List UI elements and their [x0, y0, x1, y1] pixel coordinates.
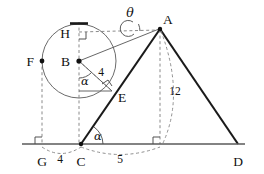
helper-lines	[79, 29, 159, 91]
label-point-F: F	[26, 54, 34, 69]
label-point-H: H	[60, 26, 70, 41]
label-base-4: 4	[57, 153, 63, 165]
dot-F	[40, 59, 45, 64]
label-point-A: A	[163, 12, 173, 27]
label-point-C: C	[76, 154, 85, 169]
label-angle-theta: θ	[126, 5, 134, 20]
triangle-side-C-to-A	[81, 29, 160, 144]
horizontal-dashed-H-to-A	[79, 30, 159, 32]
label-point-E: E	[118, 90, 126, 105]
label-altitude-12: 12	[169, 85, 181, 97]
geometry-figure: A B C D E F G H 4 12 4 5 θ α α	[0, 0, 264, 174]
label-angle-alpha-C: α	[94, 129, 102, 143]
label-point-G: G	[37, 154, 47, 169]
angle-arc-theta-loop	[120, 20, 134, 36]
label-point-B: B	[61, 54, 70, 69]
right-angle-mark-G	[35, 137, 42, 144]
geometry-diagram-root: A B C D E F G H 4 12 4 5 θ α α	[0, 0, 264, 174]
label-point-D: D	[233, 154, 243, 169]
line-B-to-A	[79, 29, 159, 61]
dot-A	[158, 27, 162, 31]
dot-B	[76, 58, 81, 63]
label-angle-alpha-B: α	[81, 74, 89, 88]
right-angle-mark-H	[79, 32, 86, 39]
point-labels: A B C D E F G H	[26, 12, 243, 169]
right-angle-mark-altitude-foot	[153, 137, 160, 144]
dot-C	[79, 142, 83, 146]
angle-arc-theta-at-A	[139, 24, 141, 31]
label-base-5: 5	[117, 153, 123, 165]
label-radius-4: 4	[98, 66, 104, 78]
